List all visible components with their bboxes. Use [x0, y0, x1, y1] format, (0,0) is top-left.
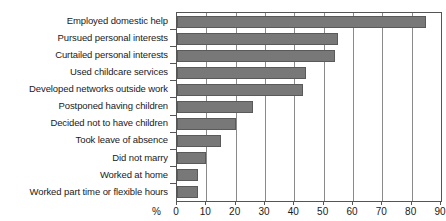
category-label: Employed domestic help	[0, 12, 172, 29]
bar[interactable]	[177, 16, 426, 28]
category-label: Developed networks outside work	[0, 80, 172, 97]
category-label: Curtailed personal interests	[0, 46, 172, 63]
x-axis-tick-labels: 0102030405060708090	[176, 205, 440, 219]
bar-row	[177, 133, 441, 150]
category-label: Decided not to have children	[0, 115, 172, 132]
x-axis-tick-label: 20	[229, 205, 240, 219]
x-axis-tick-label: 60	[346, 205, 357, 219]
x-axis-unit-label: %	[152, 205, 161, 219]
bar-row	[177, 30, 441, 47]
category-label: Worked part time or flexible hours	[0, 183, 172, 200]
bar[interactable]	[177, 186, 198, 198]
category-tick-marks	[168, 12, 176, 200]
category-label: Pursued personal interests	[0, 29, 172, 46]
bar-row	[177, 64, 441, 81]
x-axis-tick-label: 70	[376, 205, 387, 219]
bar[interactable]	[177, 152, 206, 164]
bar-row	[177, 81, 441, 98]
bar-row	[177, 98, 441, 115]
bar[interactable]	[177, 135, 221, 147]
category-label: Took leave of absence	[0, 132, 172, 149]
category-label: Postponed having children	[0, 97, 172, 114]
plot-area	[176, 12, 442, 202]
x-axis-tick-label: 90	[434, 205, 445, 219]
x-axis-tick-label: 0	[173, 205, 179, 219]
bar[interactable]	[177, 118, 236, 130]
category-axis: Employed domestic helpPursued personal i…	[0, 12, 172, 200]
bar[interactable]	[177, 67, 306, 79]
bars-layer	[177, 13, 441, 201]
bar-row	[177, 167, 441, 184]
x-axis-tick-label: 30	[258, 205, 269, 219]
bar[interactable]	[177, 169, 198, 181]
bar-row	[177, 13, 441, 30]
x-axis-tick-label: 80	[405, 205, 416, 219]
bar-row	[177, 47, 441, 64]
bar[interactable]	[177, 101, 253, 113]
category-label: Worked at home	[0, 166, 172, 183]
bar[interactable]	[177, 84, 303, 96]
bar[interactable]	[177, 33, 338, 45]
x-axis-tick-label: 50	[317, 205, 328, 219]
category-label: Did not marry	[0, 149, 172, 166]
bar-row	[177, 150, 441, 167]
x-axis-tick-label: 40	[288, 205, 299, 219]
bar[interactable]	[177, 50, 335, 62]
bar-row	[177, 116, 441, 133]
x-axis-tick-label: 10	[200, 205, 211, 219]
category-label: Used childcare services	[0, 63, 172, 80]
bar-row	[177, 184, 441, 201]
